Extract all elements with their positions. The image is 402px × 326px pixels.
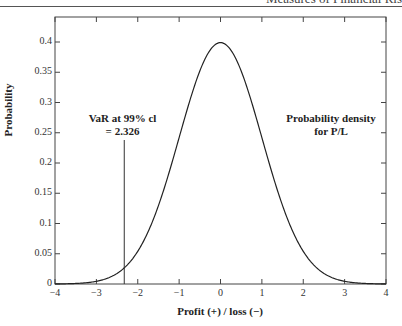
density-annotation-line2: for P/L [314,125,348,137]
y-tick-label: 0.2 [15,156,52,167]
density-curve [55,43,386,284]
var-annotation: VaR at 99% cl = 2.326 [70,112,175,138]
x-tick-label: −1 [169,287,189,298]
x-tick-label: 2 [293,287,313,298]
chart-plot [0,0,402,326]
var-annotation-line2: = 2.326 [106,125,140,137]
y-tick-label: 0.3 [15,96,52,107]
y-axis-label: Probability [2,70,14,150]
density-annotation: Probability density for P/L [276,112,386,138]
x-tick-label: −3 [86,287,106,298]
y-tick-label: 0.25 [15,126,52,137]
plot-frame [55,17,386,284]
x-tick-label: 3 [335,287,355,298]
var-annotation-line1: VaR at 99% cl [89,112,157,124]
density-annotation-line1: Probability density [286,112,375,124]
y-tick-label: 0.4 [15,35,52,46]
x-tick-label: 4 [376,287,396,298]
y-tick-label: 0.1 [15,217,52,228]
y-tick-label: 0.35 [15,65,52,76]
y-tick-label: 0.15 [15,186,52,197]
x-tick-label: −2 [128,287,148,298]
x-tick-label: 0 [211,287,231,298]
x-tick-label: −4 [45,287,65,298]
x-axis-label: Profit (+) / loss (−) [150,305,290,317]
y-tick-label: 0.05 [15,247,52,258]
y-tick-label: 0 [15,277,52,288]
x-tick-label: 1 [252,287,272,298]
